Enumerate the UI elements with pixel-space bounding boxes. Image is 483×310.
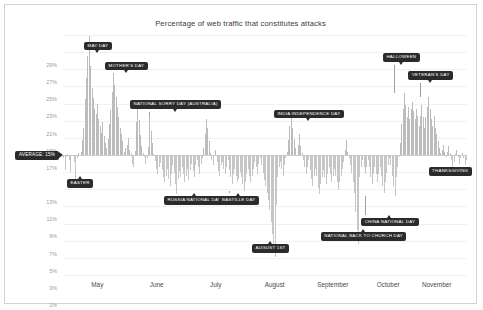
annotation-pointer	[268, 241, 272, 244]
x-axis-tick-label: May	[91, 281, 103, 288]
data-bar	[147, 155, 148, 158]
gridline	[63, 86, 467, 87]
average-baseline-badge: AVERAGE: 15%	[15, 151, 59, 160]
chart-title: Percentage of web traffic that constitut…	[5, 19, 476, 28]
gridline	[63, 258, 467, 259]
data-bar	[460, 155, 461, 158]
x-axis: MayJuneJulyAugustSeptemberOctoberNovembe…	[63, 281, 467, 293]
annotation-badge-china-national-day[interactable]: CHINA NATIONAL DAY	[361, 218, 419, 227]
data-bar	[213, 155, 214, 165]
x-axis-tick-label: August	[265, 281, 285, 288]
annotation-badge-thanksgiving[interactable]: THANKSGIVING	[429, 167, 472, 176]
gridline	[63, 241, 467, 242]
annotation-pointer	[192, 193, 196, 196]
data-bar	[79, 155, 80, 156]
annotation-pointer	[95, 50, 99, 53]
y-axis-tick-label: 11%	[47, 216, 57, 222]
data-bar	[399, 155, 400, 157]
annotation-badge-bastille-day[interactable]: BASTILLE DAY	[219, 196, 259, 205]
gridline	[63, 189, 467, 190]
annotation-pointer	[78, 176, 82, 179]
data-bar	[343, 155, 344, 162]
annotation-pointer	[428, 80, 432, 83]
annotation-pointer	[173, 109, 177, 112]
y-axis-tick-label: 9%	[49, 233, 57, 239]
average-badge-pointer	[59, 152, 63, 158]
annotation-badge-national-sorry-day[interactable]: NATIONAL SORRY DAY (AUSTRALIA)	[130, 100, 221, 109]
x-axis-tick-label: September	[317, 281, 348, 288]
annotation-badge-russia-national-day[interactable]: RUSSIA NATIONAL DAY	[164, 196, 224, 205]
annotation-badge-may-day[interactable]: MAY DAY	[84, 42, 112, 51]
data-bar	[296, 155, 297, 156]
data-bar	[397, 155, 398, 167]
annotation-leader-line	[149, 112, 150, 115]
y-axis-tick-label: 21%	[46, 131, 57, 137]
y-axis-tick-label: 3%	[49, 285, 57, 291]
annotation-pointer	[306, 118, 310, 121]
y-axis-tick-label: 7%	[49, 251, 57, 257]
gridline	[63, 104, 467, 105]
data-bar	[202, 155, 203, 158]
annotation-pointer	[399, 62, 403, 65]
annotation-badge-veterans-day[interactable]: VETERAN'S DAY	[408, 71, 453, 80]
y-axis-tick-label: 1%	[49, 302, 57, 308]
data-bar	[66, 155, 67, 157]
y-axis-tick-label: 13%	[46, 199, 57, 205]
annotation-badge-mothers-day[interactable]: MOTHER'S DAY	[105, 62, 148, 71]
data-bar	[214, 155, 215, 156]
annotation-pointer	[124, 70, 128, 73]
gridline	[63, 35, 467, 36]
x-axis-tick-label: November	[422, 281, 451, 288]
chart-frame: Percentage of web traffic that constitut…	[4, 4, 477, 304]
data-bar	[466, 155, 467, 160]
data-bar	[65, 155, 66, 170]
y-axis-tick-label: 5%	[49, 268, 57, 274]
data-bar	[285, 155, 286, 158]
data-bar	[70, 155, 71, 172]
annotation-pointer	[236, 193, 240, 196]
data-bar	[295, 148, 296, 155]
data-bar	[446, 155, 447, 157]
data-bar	[454, 155, 455, 162]
annotation-badge-national-back-to-church-day[interactable]: NATIONAL BACK TO CHURCH DAY	[321, 232, 407, 241]
x-axis-tick-label: June	[150, 281, 164, 288]
annotation-pointer	[361, 229, 365, 232]
data-bar	[133, 155, 134, 167]
x-axis-tick-label: July	[210, 281, 221, 288]
y-axis-tick-label: 29%	[46, 62, 57, 68]
y-axis-tick-label: 25%	[46, 96, 57, 102]
annotation-badge-india-independence-day[interactable]: INDIA INDEPENDENCE DAY	[274, 110, 344, 119]
gridline	[63, 275, 467, 276]
annotation-leader-line	[420, 83, 421, 96]
annotation-leader-line	[229, 191, 230, 193]
annotation-badge-august-1st[interactable]: AUGUST 1ST	[252, 244, 289, 253]
plot-area: MAY DAYMOTHER'S DAYEASTERNATIONAL SORRY …	[63, 35, 467, 275]
y-axis-tick-label: 23%	[46, 113, 57, 119]
gridline	[63, 206, 467, 207]
y-axis-tick-label: 27%	[46, 79, 57, 85]
data-bar	[77, 155, 78, 158]
x-axis-tick-label: October	[377, 281, 400, 288]
annotation-leader-line	[365, 196, 366, 215]
annotation-badge-halloween[interactable]: HALLOWEEN	[383, 53, 420, 62]
y-axis-tick-label: 17%	[46, 165, 57, 171]
annotation-leader-line	[394, 65, 395, 93]
annotation-badge-easter[interactable]: EASTER	[67, 179, 93, 188]
annotation-pointer	[387, 215, 391, 218]
